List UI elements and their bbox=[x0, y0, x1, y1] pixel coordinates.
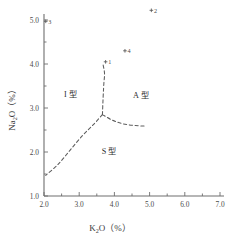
x-tick-label: 6.0 bbox=[180, 200, 190, 209]
data-point-label: 1 bbox=[108, 58, 111, 65]
boundary-A-S-right-branch bbox=[102, 115, 146, 126]
svg-text:K2O（%）: K2O（%） bbox=[89, 223, 131, 234]
field-labels: I 型A 型S 型 bbox=[64, 90, 149, 156]
data-point: 2 bbox=[150, 7, 157, 14]
data-points: 1234 bbox=[44, 7, 157, 65]
y-axis-tick-labels: 1.02.03.04.05.0 bbox=[30, 16, 40, 201]
y-tick-label: 4.0 bbox=[30, 60, 40, 69]
field-label: A 型 bbox=[133, 91, 149, 100]
y-tick-label: 1.0 bbox=[30, 192, 40, 201]
x-tick-label: 3.0 bbox=[75, 200, 85, 209]
y-tick-label: 5.0 bbox=[30, 16, 40, 25]
data-point: 4 bbox=[123, 47, 130, 54]
x-tick-label: 7.0 bbox=[215, 200, 225, 209]
svg-text:Na2O（%）: Na2O（%） bbox=[7, 85, 18, 131]
axes bbox=[44, 14, 224, 196]
field-label: S 型 bbox=[102, 147, 117, 156]
y-axis-title-rest: O（%） bbox=[7, 85, 17, 117]
y-axis-title: Na2O（%） bbox=[7, 85, 18, 131]
x-axis-tick-labels: 2.03.04.05.06.07.0 bbox=[39, 200, 225, 209]
scatter-plot: 2.03.04.05.06.07.0 1.02.03.04.05.0 I 型A … bbox=[0, 0, 236, 239]
data-point-label: 2 bbox=[154, 7, 157, 14]
field-label: I 型 bbox=[64, 90, 77, 99]
data-point-label: 4 bbox=[128, 47, 131, 54]
boundary-I-S-lower-left-branch bbox=[46, 115, 103, 176]
x-tick-label: 4.0 bbox=[110, 200, 120, 209]
x-tick-label: 5.0 bbox=[145, 200, 155, 209]
data-point: 1 bbox=[104, 58, 111, 65]
data-point: 3 bbox=[44, 18, 51, 25]
x-axis-ticks bbox=[44, 192, 220, 196]
x-axis-title-rest: O（%） bbox=[99, 223, 131, 233]
y-tick-label: 3.0 bbox=[30, 104, 40, 113]
x-axis-title: K2O（%） bbox=[89, 223, 131, 234]
y-axis-title-main: Na bbox=[7, 120, 17, 131]
y-tick-label: 2.0 bbox=[30, 148, 40, 157]
boundary-I-A-upper-branch bbox=[102, 65, 104, 115]
data-point-label: 3 bbox=[48, 18, 51, 25]
field-boundary-curves bbox=[46, 65, 146, 175]
x-tick-label: 2.0 bbox=[39, 200, 49, 209]
chart-container: 2.03.04.05.06.07.0 1.02.03.04.05.0 I 型A … bbox=[0, 0, 236, 239]
y-axis-ticks bbox=[44, 20, 48, 196]
